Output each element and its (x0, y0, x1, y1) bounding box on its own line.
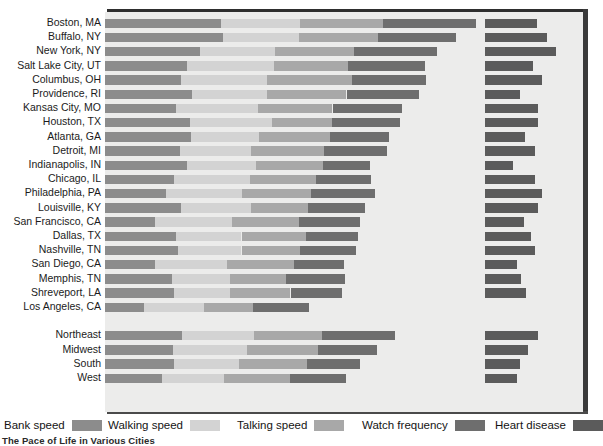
segment-walking-speed (174, 175, 250, 185)
segment-watch-frequency (383, 19, 476, 29)
segment-watch-frequency (300, 246, 356, 256)
row-label: Louisville, KY (0, 202, 101, 213)
bar-heart-disease (485, 47, 556, 57)
row-label: Indianapolis, IN (0, 159, 101, 170)
segment-bank-speed (105, 90, 192, 100)
segment-watch-frequency (294, 260, 344, 270)
chart-row: Chicago, IL (0, 173, 590, 187)
segment-bank-speed (105, 189, 166, 199)
chart-row: South (0, 358, 590, 372)
row-label: Philadelphia, PA (0, 187, 101, 198)
bar-heart-disease (485, 345, 528, 355)
segment-talking-speed (251, 146, 325, 156)
stacked-bar (105, 260, 344, 270)
segment-watch-frequency (378, 33, 456, 43)
segment-watch-frequency (354, 47, 437, 57)
row-label: Memphis, TN (0, 273, 101, 284)
segment-walking-speed (180, 146, 251, 156)
chart-row: San Francisco, CA (0, 216, 590, 230)
segment-bank-speed (105, 345, 173, 355)
segment-watch-frequency (306, 232, 358, 242)
bar-heart-disease (485, 33, 547, 43)
segment-talking-speed (239, 359, 307, 369)
stacked-bar (105, 232, 358, 242)
chart-row: Midwest (0, 344, 590, 358)
chart-row: Philadelphia, PA (0, 187, 590, 201)
segment-bank-speed (105, 359, 174, 369)
segment-bank-speed (105, 274, 172, 284)
legend-item: Watch frequency (362, 416, 485, 434)
bar-heart-disease (485, 359, 520, 369)
stacked-bar (105, 374, 346, 384)
segment-watch-frequency (323, 161, 370, 171)
segment-talking-speed (230, 274, 286, 284)
legend-item: Bank speed (4, 416, 102, 434)
legend-item: Heart disease (495, 416, 603, 434)
segment-watch-frequency (318, 345, 378, 355)
chart-row: Detroit, MI (0, 145, 590, 159)
bar-heart-disease (485, 288, 526, 298)
segment-talking-speed (224, 374, 290, 384)
segment-bank-speed (105, 331, 182, 341)
bar-rows: Boston, MABuffalo, NYNew York, NYSalt La… (0, 12, 590, 412)
stacked-bar (105, 303, 309, 313)
segment-walking-speed (181, 203, 252, 213)
segment-talking-speed (250, 175, 316, 185)
stacked-bar (105, 132, 389, 142)
segment-bank-speed (105, 203, 181, 213)
segment-bank-speed (105, 104, 176, 114)
segment-talking-speed (256, 161, 323, 171)
row-label: Columbus, OH (0, 74, 101, 85)
segment-watch-frequency (348, 61, 425, 71)
chart-row: Northeast (0, 329, 590, 343)
segment-talking-speed (259, 132, 330, 142)
stacked-bar (105, 19, 476, 29)
segment-bank-speed (105, 374, 162, 384)
legend-swatch (573, 420, 603, 431)
segment-bank-speed (105, 75, 181, 85)
bar-heart-disease (485, 175, 535, 185)
row-label: West (0, 372, 101, 383)
stacked-bar (105, 61, 425, 71)
segment-bank-speed (105, 246, 178, 256)
row-label: Dallas, TX (0, 230, 101, 241)
segment-watch-frequency (332, 118, 401, 128)
chart-row: West (0, 372, 590, 386)
chart-row: Indianapolis, IN (0, 159, 590, 173)
segment-watch-frequency (286, 274, 346, 284)
segment-walking-speed (187, 161, 256, 171)
segment-walking-speed (162, 374, 224, 384)
segment-walking-speed (173, 345, 247, 355)
chart-legend: Bank speedWalking speedTalking speedWatc… (0, 416, 590, 434)
segment-watch-frequency (330, 132, 389, 142)
segment-watch-frequency (324, 146, 387, 156)
segment-talking-speed (232, 217, 299, 227)
bar-heart-disease (485, 61, 533, 71)
segment-watch-frequency (352, 75, 426, 85)
legend-label: Watch frequency (362, 419, 448, 432)
segment-watch-frequency (311, 189, 375, 199)
legend-label: Walking speed (108, 419, 183, 432)
bar-heart-disease (485, 146, 535, 156)
segment-talking-speed (204, 303, 253, 313)
segment-bank-speed (105, 132, 191, 142)
bar-heart-disease (485, 189, 542, 199)
segment-walking-speed (172, 274, 229, 284)
row-label: Buffalo, NY (0, 31, 101, 42)
segment-talking-speed (299, 33, 378, 43)
bar-heart-disease (485, 132, 525, 142)
row-label: San Diego, CA (0, 258, 101, 269)
chart-row: Nashville, TN (0, 244, 590, 258)
segment-bank-speed (105, 47, 200, 57)
segment-talking-speed (251, 203, 308, 213)
stacked-bar (105, 33, 456, 43)
segment-bank-speed (105, 146, 180, 156)
bar-heart-disease (485, 203, 538, 213)
segment-watch-frequency (291, 288, 342, 298)
segment-bank-speed (105, 33, 223, 43)
segment-talking-speed (254, 331, 322, 341)
chart-row: Providence, RI (0, 88, 590, 102)
stacked-bar (105, 118, 400, 128)
chart-row: San Diego, CA (0, 258, 590, 272)
segment-walking-speed (223, 33, 299, 43)
